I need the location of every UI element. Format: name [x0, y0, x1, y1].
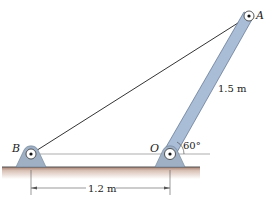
label-bar-length: 1.5 m	[218, 83, 247, 94]
pin-a	[244, 11, 254, 21]
label-b: B	[11, 142, 20, 155]
cable-ab	[31, 16, 249, 154]
label-angle: 60°	[183, 140, 201, 151]
label-o: O	[150, 142, 159, 155]
support-b	[16, 146, 46, 167]
label-a: A	[255, 9, 264, 22]
support-o	[155, 146, 185, 167]
label-base-distance: 1.2 m	[88, 183, 117, 194]
mechanics-diagram: A B O 1.5 m 60° 1.2 m	[0, 0, 265, 209]
